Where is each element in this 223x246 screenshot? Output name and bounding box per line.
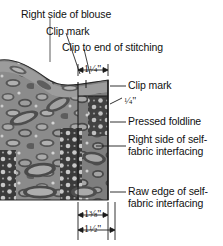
label-right-side-of-blouse: Right side of blouse: [21, 9, 111, 21]
fabric-outline: [0, 60, 108, 200]
dim-unit-4: ": [97, 223, 101, 234]
leader-quarter-inch: [110, 98, 122, 104]
sewing-diagram-figure: Right side of blouse Clip mark Clip to e…: [0, 0, 223, 246]
label-pressed-foldline: Pressed foldline: [128, 116, 201, 128]
dim-fraction-1: 1⁄4: [89, 63, 97, 74]
dim-fraction-4: 1⁄2: [89, 223, 97, 234]
dim-fraction-2: 1⁄4: [124, 95, 132, 106]
label-raw-edge-of-self-fabric-interfacing: Raw edge of self-fabric interfacing: [128, 186, 220, 209]
dimension-label-one-and-half-inch: 11⁄2": [84, 223, 101, 234]
dim-fraction-3: 3⁄8: [89, 208, 97, 219]
label-clip-to-end-of-stitching: Clip to end of stitching: [62, 42, 163, 54]
dimension-label-one-and-three-eighths-inch: 13⁄8": [84, 208, 101, 219]
fabric-body: [0, 50, 118, 210]
dimension-label-one-and-quarter-inch: 11⁄4": [84, 63, 101, 74]
label-right-side-of-self-fabric-interfacing: Right side of self-fabric interfacing: [128, 134, 220, 157]
leader-clip-mark-top: [66, 33, 80, 74]
label-clip-mark-right: Clip mark: [128, 80, 171, 92]
dim-unit-1: ": [97, 63, 101, 74]
dim-unit-2: ": [132, 95, 136, 106]
label-clip-mark-top: Clip mark: [46, 26, 89, 38]
dim-unit-3: ": [97, 208, 101, 219]
dimension-label-quarter-inch: 1⁄4": [124, 95, 136, 106]
